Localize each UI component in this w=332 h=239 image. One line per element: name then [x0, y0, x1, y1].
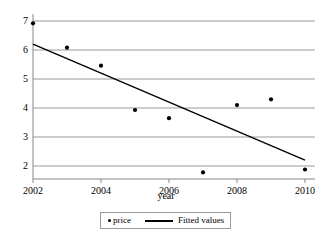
data-point-2007 [201, 170, 205, 174]
y-tick-label-7: 7 [12, 16, 28, 26]
scatter-plot-canvas [0, 0, 332, 239]
chart-figure: 7 6 5 4 3 2 2002 2004 2006 2008 2010 yea… [0, 0, 332, 239]
legend-item-fitted-values[interactable]: Fitted values [145, 216, 224, 225]
y-tick-label-5: 5 [12, 74, 28, 84]
y-tick-label-3: 3 [12, 132, 28, 142]
data-point-2010 [303, 167, 307, 171]
legend-label-fitted-values: Fitted values [178, 216, 224, 225]
y-tick-label-2: 2 [12, 161, 28, 171]
legend-dot-icon [108, 219, 111, 222]
legend-label-price: price [113, 216, 131, 225]
legend-line-icon [145, 220, 173, 222]
legend-item-price[interactable]: price [108, 216, 131, 225]
y-tick-label-4: 4 [12, 103, 28, 113]
data-point-2005 [133, 108, 137, 112]
x-axis-ticks [33, 179, 305, 183]
fitted-values-line [33, 44, 305, 160]
chart-legend: price Fitted values [100, 212, 231, 229]
data-point-2003 [65, 46, 69, 50]
data-point-2006 [167, 116, 171, 120]
data-point-2009 [269, 97, 273, 101]
gridlines [33, 21, 315, 166]
data-point-2004 [99, 64, 103, 68]
data-point-2008 [235, 103, 239, 107]
price-data-points [31, 21, 307, 174]
y-tick-label-6: 6 [12, 45, 28, 55]
data-point-2002 [31, 21, 35, 25]
x-axis-title: year [0, 190, 332, 201]
